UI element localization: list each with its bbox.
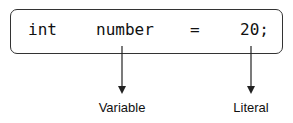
label-literal: Literal [233, 100, 268, 115]
arrow-down-icon [247, 46, 255, 94]
arrow-down-icon [118, 46, 126, 94]
label-variable: Variable [99, 100, 146, 115]
